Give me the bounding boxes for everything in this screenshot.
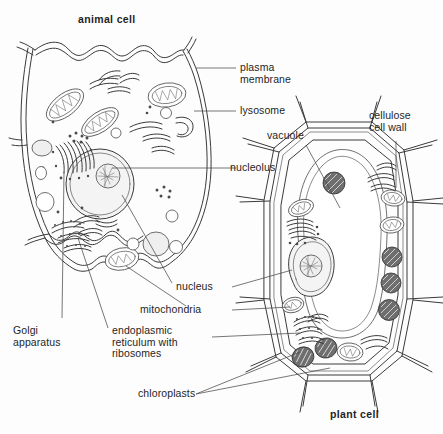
animal-er-upper <box>90 71 139 93</box>
leader-golgi <box>62 172 64 318</box>
title-animal-cell: animal cell <box>78 14 136 26</box>
label-nucleolus: nucleolus <box>230 162 275 174</box>
animal-lysosome <box>161 108 172 119</box>
diagram-canvas: animal cell plant cell plasma membrane l… <box>0 0 443 434</box>
leader-mitochondria-plant <box>232 307 290 310</box>
label-endoplasmic-reticulum: endoplasmic reticulum with ribosomes <box>112 325 178 360</box>
animal-er-ribosomes <box>52 216 102 252</box>
label-plasma-membrane: plasma membrane <box>240 62 291 85</box>
leader-chloroplast-a <box>196 352 300 394</box>
leader-er-plant <box>212 333 300 337</box>
label-cellulose-cell-wall: cellulose cell wall <box>369 110 411 133</box>
plant-nucleus <box>289 237 335 296</box>
animal-er-mid <box>130 122 174 154</box>
label-chloroplasts: chloroplasts <box>138 388 195 400</box>
label-lysosome: lysosome <box>240 105 285 117</box>
plant-cell-drawing <box>236 96 443 412</box>
label-mitochondria: mitochondria <box>140 304 201 316</box>
title-plant-cell: plant cell <box>330 409 379 421</box>
animal-er-loop <box>96 220 117 227</box>
label-golgi-apparatus: Golgi apparatus <box>13 325 61 348</box>
label-vacuole: vacuole <box>267 130 304 142</box>
leader-er-animal <box>78 238 108 328</box>
cell-diagram-artwork <box>0 0 443 434</box>
animal-cell-drawing <box>9 37 211 273</box>
leader-nucleus-plant <box>232 270 292 287</box>
label-nucleus: nucleus <box>176 281 213 293</box>
